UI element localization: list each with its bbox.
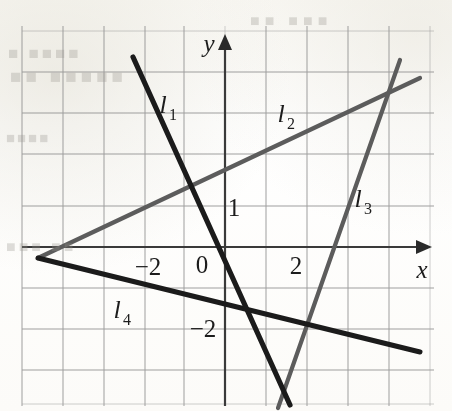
- line-l3: [278, 60, 400, 408]
- label-l2: l 2: [277, 99, 295, 132]
- svg-text:l: l: [354, 184, 361, 213]
- svg-text:1: 1: [169, 106, 177, 123]
- x-tick-label-2: 2: [290, 252, 303, 279]
- tick-labels: 0 −2 2 1 −2: [135, 194, 303, 342]
- svg-text:2: 2: [287, 115, 295, 132]
- x-axis-label: x: [415, 256, 427, 283]
- plotted-lines: [38, 57, 420, 408]
- y-tick-label-1: 1: [228, 194, 241, 221]
- y-axis-arrowhead: [218, 34, 232, 50]
- origin-label: 0: [196, 251, 209, 278]
- label-l3: l 3: [354, 184, 372, 217]
- axis-name-labels: y x: [200, 30, 427, 283]
- x-tick-label-minus-2: −2: [135, 253, 162, 280]
- graph-canvas: 0 −2 2 1 −2 y x l 1 l 2 l 3: [0, 0, 452, 411]
- y-tick-label-minus-2: −2: [190, 315, 217, 342]
- svg-text:l: l: [159, 90, 166, 119]
- svg-text:l: l: [113, 295, 120, 324]
- label-l1: l 1: [159, 90, 177, 123]
- label-l4: l 4: [113, 295, 131, 328]
- svg-text:3: 3: [364, 200, 372, 217]
- svg-text:4: 4: [123, 311, 131, 328]
- coordinate-plane-figure: 0 −2 2 1 −2 y x l 1 l 2 l 3: [0, 0, 452, 411]
- y-axis-label: y: [200, 30, 215, 57]
- line-labels: l 1 l 2 l 3 l 4: [113, 90, 372, 328]
- svg-text:l: l: [277, 99, 284, 128]
